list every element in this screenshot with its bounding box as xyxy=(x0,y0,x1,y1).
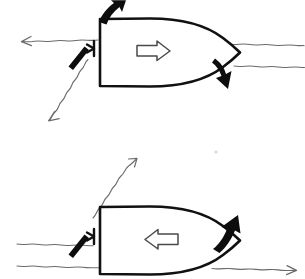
figure-root xyxy=(0,0,305,279)
upper-diagram xyxy=(0,0,305,140)
background-speck xyxy=(214,150,217,153)
lower-diagram xyxy=(0,140,305,279)
boat-maneuvering-figure xyxy=(0,0,305,279)
